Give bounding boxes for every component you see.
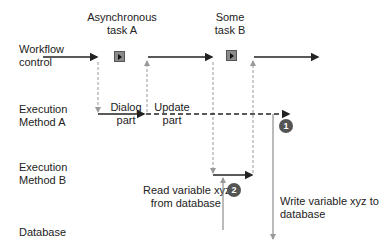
task-b-play-icon [226,50,237,61]
step-badge-2: 2 [227,183,241,197]
task-a-play-icon [114,51,125,62]
diagram-lines [0,0,387,249]
step-badge-1: 1 [279,119,293,133]
